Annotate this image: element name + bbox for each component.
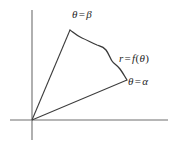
label-beta-equals: = [78, 8, 87, 20]
polar-region-figure: θ=β r=f(θ) θ=α [0, 0, 173, 144]
label-alpha-equals: = [134, 75, 143, 87]
label-fn-lhs: r [119, 52, 124, 64]
label-alpha-rhs: α [142, 75, 148, 87]
label-theta-equals-beta: θ=β [72, 9, 92, 20]
label-fn-equals: = [124, 52, 133, 64]
label-theta-equals-alpha: θ=α [128, 76, 148, 87]
label-fn-close-paren: ) [145, 52, 149, 64]
label-beta-lhs: θ [72, 8, 78, 20]
label-r-equals-f-theta: r=f(θ) [119, 53, 149, 64]
label-beta-rhs: β [86, 8, 92, 20]
figure-canvas [0, 0, 173, 144]
label-alpha-lhs: θ [128, 75, 134, 87]
